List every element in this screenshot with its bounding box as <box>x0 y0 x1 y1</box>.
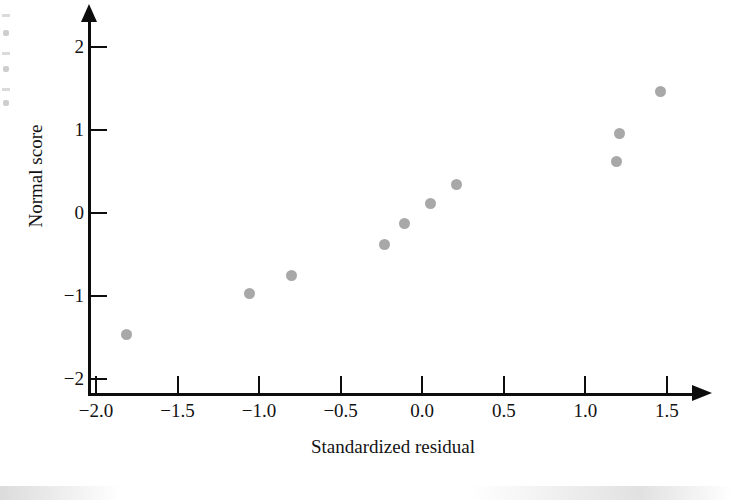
scatter-point <box>614 128 625 139</box>
x-axis-tick-label: 1.0 <box>550 400 620 422</box>
x-axis-tick <box>177 376 179 393</box>
scatter-point <box>244 288 255 299</box>
x-axis-tick <box>666 376 668 393</box>
x-axis-tick <box>421 376 423 393</box>
y-axis-tick <box>91 46 107 48</box>
scatter-point <box>451 179 462 190</box>
y-axis-tick-label: 0 <box>42 203 84 222</box>
scan-artifact <box>2 52 10 55</box>
scatter-point <box>121 329 132 340</box>
y-axis-arrow-icon <box>81 4 97 22</box>
y-axis-title: Normal score <box>25 96 47 256</box>
x-axis-tick-label: −0.5 <box>306 400 376 422</box>
x-axis-line <box>88 393 698 396</box>
y-axis-tick-label: −1 <box>42 286 84 305</box>
x-axis-tick-label: 0.5 <box>469 400 539 422</box>
x-axis-title: Standardized residual <box>88 436 698 458</box>
scatter-point <box>655 86 666 97</box>
y-axis-tick-label-wrap: −1 <box>28 286 84 306</box>
y-axis-tick-label: 1 <box>42 120 84 139</box>
x-axis-tick-label: 1.5 <box>632 400 702 422</box>
x-axis-tick <box>340 376 342 393</box>
y-axis-tick <box>91 212 107 214</box>
x-axis-tick <box>258 376 260 393</box>
y-axis-tick-label: −2 <box>42 369 84 388</box>
x-axis-tick-label: −1.5 <box>143 400 213 422</box>
scatter-point <box>425 198 436 209</box>
scan-artifact <box>2 14 10 17</box>
scatter-point <box>286 270 297 281</box>
scan-artifact <box>3 66 9 72</box>
scatter-point <box>611 156 622 167</box>
x-axis-tick-label: 0.0 <box>387 400 457 422</box>
normal-probability-plot: −2.0−1.5−1.0−0.50.00.51.01.5210−1−2 Norm… <box>0 0 732 500</box>
y-axis-line <box>88 16 91 396</box>
x-axis-tick <box>584 376 586 393</box>
y-axis-tick-label: 2 <box>42 37 84 56</box>
scan-artifact <box>3 100 9 106</box>
scatter-point <box>379 239 390 250</box>
x-axis-tick <box>503 376 505 393</box>
y-axis-tick <box>91 295 107 297</box>
x-axis-arrow-icon <box>692 385 712 401</box>
y-axis-tick-label-wrap: 2 <box>28 37 84 57</box>
scan-artifact <box>2 88 10 91</box>
y-axis-tick <box>91 378 107 380</box>
scan-artifact <box>3 30 9 36</box>
y-axis-tick <box>91 129 107 131</box>
y-axis-tick-label-wrap: −2 <box>28 369 84 389</box>
x-axis-tick-label: −1.0 <box>224 400 294 422</box>
page-edge-smudge <box>0 486 732 500</box>
x-axis-tick-label: −2.0 <box>61 400 131 422</box>
scatter-point <box>399 218 410 229</box>
